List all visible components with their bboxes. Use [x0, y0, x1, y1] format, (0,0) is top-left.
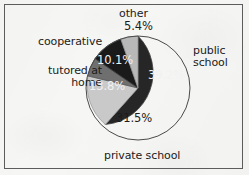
slice-value-other: 5.4% [124, 20, 153, 32]
pie-chart-figure: other 5.4% cooperative 10.1% tutored at … [0, 0, 249, 175]
slice-value-cooperative: 10.1% [97, 54, 133, 66]
slice-label-cooperative: cooperative [38, 36, 102, 48]
slice-value-private-school: 31.5% [116, 112, 152, 124]
slice-label-other: other [119, 8, 148, 20]
slice-label-public-school: public school [193, 45, 228, 68]
slice-value-public-school: 39.2% [148, 69, 184, 81]
slice-value-tutored-at-home: 13.8% [89, 80, 125, 92]
slice-label-private-school: private school [104, 150, 180, 162]
pie-chart-plot-area: other 5.4% cooperative 10.1% tutored at … [0, 0, 249, 175]
